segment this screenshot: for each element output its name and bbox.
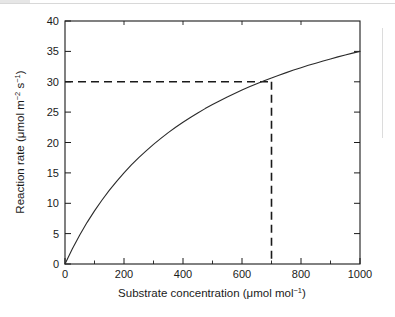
y-tick-label: 35 xyxy=(47,45,59,57)
reaction-rate-chart: 0 5 10 15 20 25 30 35 40 0 200 400 600 8… xyxy=(0,0,395,317)
x-tick-label: 600 xyxy=(233,268,251,280)
x-axis-title-exponent: −1 xyxy=(293,286,302,295)
y-tick-labels: 0 5 10 15 20 25 30 35 40 xyxy=(47,15,59,270)
y-tick-label: 5 xyxy=(53,228,59,240)
y-axis-title: Reaction rate (μmol m−2 s−1) xyxy=(13,70,26,213)
x-axis-title-close: ) xyxy=(302,287,306,299)
y-tick-label: 25 xyxy=(47,106,59,118)
x-tick-label: 200 xyxy=(115,268,133,280)
x-tick-label: 0 xyxy=(62,268,68,280)
y-axis-ticks xyxy=(65,21,71,264)
x-tick-labels: 0 200 400 600 800 1000 xyxy=(62,268,372,280)
reaction-rate-curve xyxy=(65,51,360,264)
y-axis-title-main: Reaction rate ( xyxy=(14,138,26,214)
y-axis-title-close: ) xyxy=(14,70,26,74)
y-tick-label: 20 xyxy=(47,137,59,149)
y-tick-label: 40 xyxy=(47,15,59,27)
y-tick-label: 10 xyxy=(47,197,59,209)
top-axis-ticks xyxy=(124,21,301,25)
y-axis-title-exponent-2: −1 xyxy=(13,74,22,83)
figure-container: 0 5 10 15 20 25 30 35 40 0 200 400 600 8… xyxy=(0,0,395,317)
x-axis-title-unit: μmol mol xyxy=(247,287,294,299)
right-axis-ticks xyxy=(354,51,360,233)
x-axis-title: Substrate concentration (μmol mol−1) xyxy=(118,286,306,299)
x-tick-label: 800 xyxy=(292,268,310,280)
y-axis-title-mid: s xyxy=(14,83,26,92)
y-axis-title-exponent-1: −2 xyxy=(13,92,22,101)
x-axis-title-main: Substrate concentration ( xyxy=(118,287,247,299)
y-tick-label: 15 xyxy=(47,167,59,179)
x-tick-label: 1000 xyxy=(348,268,372,280)
y-axis-title-unit: μmol m xyxy=(14,100,26,138)
plot-frame xyxy=(65,21,360,264)
y-tick-label: 30 xyxy=(47,76,59,88)
y-tick-label: 0 xyxy=(53,258,59,270)
x-tick-label: 400 xyxy=(174,268,192,280)
guide-lines xyxy=(65,82,272,264)
